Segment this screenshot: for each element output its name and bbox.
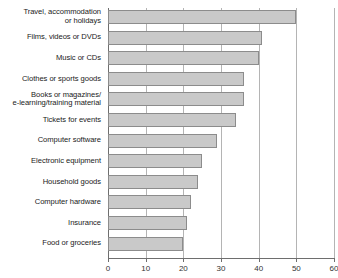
x-tick-mark	[108, 258, 109, 262]
bar	[108, 72, 244, 86]
bar	[108, 216, 187, 230]
x-tick-label: 40	[254, 264, 263, 273]
category-label: Tickets for events	[0, 116, 101, 125]
x-tick-label: 0	[106, 264, 110, 273]
x-tick-mark	[334, 258, 335, 262]
x-tick-label: 50	[292, 264, 301, 273]
bar	[108, 92, 244, 106]
x-tick-mark	[183, 258, 184, 262]
gridline-30	[221, 8, 222, 258]
bar	[108, 51, 259, 65]
x-tick-label: 30	[217, 264, 226, 273]
bar	[108, 154, 202, 168]
x-tick-mark	[259, 258, 260, 262]
bar	[108, 237, 183, 251]
x-tick-label: 10	[141, 264, 150, 273]
category-label: Travel, accommodation or holidays	[0, 8, 101, 25]
x-tick-mark	[146, 258, 147, 262]
category-label: Electronic equipment	[0, 157, 101, 166]
gridline-50	[296, 8, 297, 258]
bar	[108, 134, 217, 148]
category-label: Computer software	[0, 136, 101, 145]
category-label: Books or magazines/ e-learning/training …	[0, 91, 101, 108]
x-tick-mark	[221, 258, 222, 262]
x-tick-mark	[296, 258, 297, 262]
category-label: Insurance	[0, 219, 101, 228]
gridline-60	[334, 8, 335, 258]
category-label: Household goods	[0, 178, 101, 187]
category-label: Food or groceries	[0, 239, 101, 248]
bar	[108, 113, 236, 127]
category-label: Clothes or sports goods	[0, 75, 101, 84]
bar	[108, 10, 296, 24]
x-tick-label: 60	[330, 264, 338, 273]
bar	[108, 195, 191, 209]
category-label: Computer hardware	[0, 198, 101, 207]
bar	[108, 31, 262, 45]
gridline-40	[259, 8, 260, 258]
bar	[108, 175, 198, 189]
category-label: Music or CDs	[0, 54, 101, 63]
category-label-column: Travel, accommodation or holidaysFilms, …	[0, 0, 105, 258]
x-tick-label: 20	[179, 264, 188, 273]
category-label: Films, videos or DVDs	[0, 33, 101, 42]
